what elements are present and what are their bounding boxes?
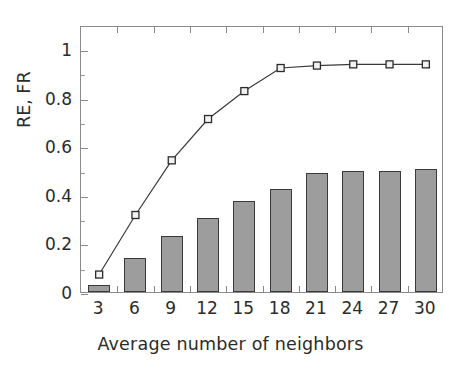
chart-figure: RE, FR 10.80.60.40.20 36912151821242730 … — [0, 0, 461, 385]
x-tick-label: 6 — [129, 300, 140, 317]
x-tick-label: 15 — [233, 300, 255, 317]
x-tick-label: 21 — [305, 300, 327, 317]
x-tick-label: 24 — [341, 300, 363, 317]
x-tick-label: 30 — [414, 300, 436, 317]
x-axis-tick-labels: 36912151821242730 — [0, 0, 461, 385]
x-tick-label: 3 — [93, 300, 104, 317]
x-tick-label: 18 — [269, 300, 291, 317]
x-tick-label: 27 — [378, 300, 400, 317]
x-axis-title: Average number of neighbors — [0, 334, 461, 354]
x-tick-label: 9 — [165, 300, 176, 317]
x-tick-label: 12 — [196, 300, 218, 317]
